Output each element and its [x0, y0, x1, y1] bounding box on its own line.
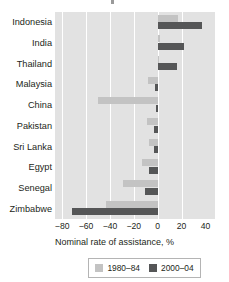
- crop-mark: [111, 0, 114, 4]
- category-label: Thailand: [0, 59, 52, 69]
- legend-label: 2000–04: [161, 264, 194, 273]
- bar: [147, 118, 158, 125]
- bar: [149, 167, 157, 174]
- category-label: Pakistan: [0, 121, 52, 131]
- legend-swatch-icon: [95, 264, 103, 272]
- legend-swatch-icon: [149, 264, 157, 272]
- plot-area: [55, 12, 215, 219]
- bar-group: [55, 198, 215, 219]
- bar: [123, 180, 158, 187]
- bar-group: [55, 157, 215, 178]
- x-axis-ticks: −80−60−40−2002040: [0, 221, 229, 233]
- bar: [158, 56, 159, 63]
- bar: [158, 43, 184, 50]
- bar: [158, 35, 160, 42]
- bar: [148, 77, 158, 84]
- chart-legend: 1980–842000–04: [88, 258, 201, 278]
- x-tick-label: −20: [127, 221, 142, 232]
- category-label: China: [0, 100, 52, 110]
- bar: [154, 126, 158, 133]
- bar-group: [55, 178, 215, 199]
- category-axis-labels: IndonesiaIndiaThailandMalaysiaChinaPakis…: [0, 12, 52, 219]
- bar: [156, 105, 157, 112]
- category-label: Senegal: [0, 183, 52, 193]
- bar: [98, 97, 158, 104]
- x-tick-label: 20: [177, 221, 187, 232]
- legend-label: 1980–84: [107, 264, 140, 273]
- chart-container: IndonesiaIndiaThailandMalaysiaChinaPakis…: [0, 0, 229, 282]
- bar: [155, 84, 157, 91]
- bar: [154, 146, 158, 153]
- x-tick-label: 40: [201, 221, 211, 232]
- bar: [158, 15, 178, 22]
- legend-item: 1980–84: [95, 264, 140, 273]
- bar-group: [55, 136, 215, 157]
- bar: [149, 139, 157, 146]
- bar-group: [55, 33, 215, 54]
- x-axis-title: Nominal rate of assistance, %: [0, 236, 229, 248]
- bar: [142, 159, 158, 166]
- bar: [106, 201, 157, 208]
- x-tick-label: −80: [55, 221, 70, 232]
- bar-group: [55, 74, 215, 95]
- bar-group: [55, 12, 215, 33]
- bar: [145, 188, 158, 195]
- bar-group: [55, 95, 215, 116]
- category-label: Malaysia: [0, 79, 52, 89]
- x-tick-label: 0: [155, 221, 160, 232]
- bar: [72, 208, 158, 215]
- category-label: Sri Lanka: [0, 142, 52, 152]
- bar-group: [55, 116, 215, 137]
- legend-item: 2000–04: [149, 264, 194, 273]
- category-label: India: [0, 38, 52, 48]
- bar: [158, 63, 177, 70]
- x-tick-label: −60: [79, 221, 94, 232]
- x-tick-label: −40: [103, 221, 118, 232]
- bar: [158, 22, 202, 29]
- bar-group: [55, 53, 215, 74]
- category-label: Indonesia: [0, 17, 52, 27]
- category-label: Zimbabwe: [0, 204, 52, 214]
- category-label: Egypt: [0, 162, 52, 172]
